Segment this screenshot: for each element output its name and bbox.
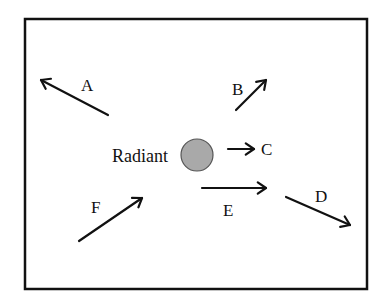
radiant-label: Radiant: [112, 146, 168, 166]
arrow-label: A: [81, 76, 94, 95]
arrow-label: B: [232, 80, 243, 99]
radiant-circle: [181, 139, 213, 171]
radiant-diagram: Radiant ABCDEF: [0, 0, 385, 302]
arrow-label: D: [315, 187, 327, 206]
arrow-label: C: [261, 140, 272, 159]
arrow-label: E: [223, 201, 233, 220]
arrow-label: F: [91, 198, 100, 217]
